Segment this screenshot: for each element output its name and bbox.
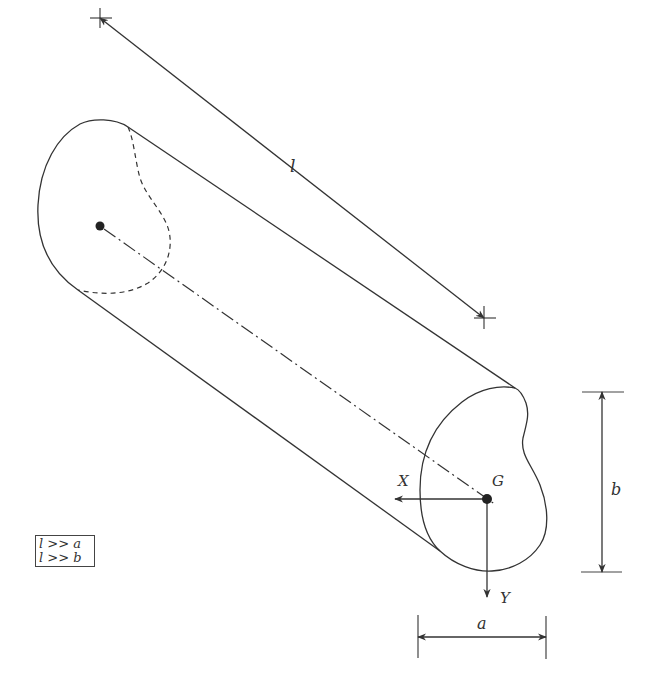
bar-diagram: l X G Y b a [0, 0, 656, 689]
left-centroid-dot [96, 222, 105, 231]
condition-l-gg-a: l >> a [39, 537, 94, 551]
centroid-label: G [492, 472, 504, 490]
section-axes [395, 494, 492, 597]
width-label: a [477, 614, 487, 633]
height-label: b [611, 480, 621, 499]
bar-bottom-edge [78, 290, 440, 551]
slenderness-conditions-box: l >> a l >> b [35, 535, 95, 567]
right-end-face [420, 387, 547, 571]
y-axis-label: Y [500, 589, 512, 607]
centroidal-axis [104, 229, 496, 505]
condition-l-gg-b: l >> b [39, 551, 94, 565]
bar-top-edge [128, 127, 515, 388]
x-axis-label: X [397, 472, 410, 490]
left-face-hidden-edge [78, 127, 170, 293]
left-end-face [38, 120, 170, 294]
length-label: l [290, 156, 295, 176]
diagram-canvas: l X G Y b a l >> a l >> b [0, 0, 656, 689]
left-face-visible-edge [38, 120, 128, 290]
centroid-g-dot [482, 494, 492, 504]
